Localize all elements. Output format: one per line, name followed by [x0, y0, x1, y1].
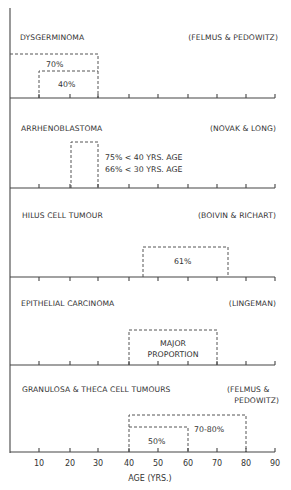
- panel-source: (LINGEMAN): [229, 299, 276, 308]
- range-label-outer: 70%: [46, 60, 63, 69]
- range-label-inner: 50%: [148, 437, 165, 446]
- range-note-1: 75% < 40 YRS. AGE: [105, 153, 183, 162]
- tick-label: 50: [153, 459, 163, 468]
- panel-dysgerminoma: DYSGERMINOMA (FELMUS & PEDOWITZ) 70% 40%: [10, 33, 278, 98]
- panel-arrhenoblastoma: ARRHENOBLASTOMA (NOVAK & LONG) 75% < 40 …: [10, 124, 276, 188]
- baseline-ticks: [39, 277, 275, 281]
- panel-title: DYSGERMINOMA: [20, 33, 85, 42]
- panel-epithelial-carcinoma: EPITHELIAL CARCINOMA (LINGEMAN) MAJOR PR…: [10, 299, 276, 365]
- panel-title: GRANULOSA & THECA CELL TUMOURS: [22, 385, 171, 394]
- panel-title: ARRHENOBLASTOMA: [21, 124, 103, 133]
- baseline-ticks: [39, 184, 275, 188]
- age-distribution-chart: DYSGERMINOMA (FELMUS & PEDOWITZ) 70% 40%…: [0, 0, 291, 490]
- tick-label: 80: [241, 459, 251, 468]
- range-label-line-1: MAJOR: [160, 339, 186, 348]
- panel-source-line-2: PEDOWITZ): [234, 396, 279, 405]
- panel-source: (NOVAK & LONG): [210, 124, 276, 133]
- tick-label: 90: [270, 459, 280, 468]
- range-label-line-2: PROPORTION: [148, 350, 199, 359]
- x-axis-tick-labels: 10 20 30 40 50 60 70 80 90: [34, 459, 280, 468]
- tick-label: 30: [93, 459, 103, 468]
- tick-label: 20: [65, 459, 75, 468]
- range-label-outer: 70-80%: [194, 425, 224, 434]
- panel-title: EPITHELIAL CARCINOMA: [21, 299, 115, 308]
- panel-source: (FELMUS & PEDOWITZ): [188, 33, 278, 42]
- tick-label: 70: [212, 459, 222, 468]
- x-axis-title: AGE (YRS.): [128, 474, 171, 483]
- range-label: 61%: [174, 257, 191, 266]
- range-box: [71, 142, 98, 188]
- panel-source-line-1: (FELMUS &: [227, 385, 270, 394]
- panel-hilus-cell-tumour: HILUS CELL TUMOUR (BOIVIN & RICHART) 61%: [10, 211, 276, 281]
- range-note-2: 66% < 30 YRS. AGE: [105, 165, 183, 174]
- panel-granulosa-theca: GRANULOSA & THECA CELL TUMOURS (FELMUS &…: [10, 385, 279, 452]
- tick-label: 10: [34, 459, 44, 468]
- baseline-ticks: [39, 94, 275, 98]
- range-label-inner: 40%: [58, 80, 75, 89]
- x-axis-ticks: [39, 448, 275, 452]
- panel-title: HILUS CELL TUMOUR: [22, 211, 103, 220]
- tick-label: 40: [124, 459, 134, 468]
- panel-source: (BOIVIN & RICHART): [198, 211, 276, 220]
- baseline-ticks: [39, 361, 275, 365]
- tick-label: 60: [183, 459, 193, 468]
